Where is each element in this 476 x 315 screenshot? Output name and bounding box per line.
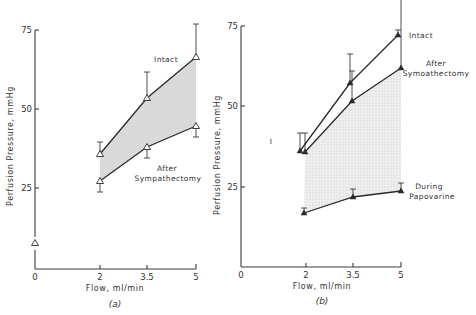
panel-a-shaded-region [100,57,196,181]
panel-a-point-zero-flow [32,240,39,246]
panel-b-stray-mark: I [270,137,273,146]
panel-a-annotation-after: After [157,164,178,173]
panel-a-y-axis [35,30,39,269]
panel-a-x-axis-label: Flow, ml/min [86,284,144,293]
panel-b-xtick-5: 5 [398,270,403,280]
panel-b-annotation-during: During [415,182,443,191]
panel-b-xtick-2: 2 [303,270,308,280]
panel-b-annotation-papaverine: Papovarine [409,192,455,201]
panel-a-ytick-25: 25 [21,183,32,193]
figure: 75 50 25 0 2 3.5 5 Perfusion Pressure, m… [0,0,476,315]
panel-b-annotation-sympathectomy: Symoathectomy [403,69,470,78]
panel-a: 75 50 25 0 2 3.5 5 Perfusion Pressure, m… [6,24,202,309]
panel-b: 75 50 25 0 2 3.5 5 Perfusion Pressure, m… [213,0,469,306]
panel-a-ytick-75: 75 [21,25,32,35]
panel-b-annotation-intact: Intact [409,31,433,40]
panel-b-y-axis-label: Perfusion Pressure, mmHg [213,95,222,215]
panel-b-annotation-after: After [426,59,447,68]
panel-b-ytick-50: 50 [227,101,238,111]
panel-a-y-axis-label: Perfusion Pressure, mmHg [6,86,15,206]
panel-b-x-axis [241,262,401,267]
panel-b-x-axis-label: Flow, ml/min [293,282,351,291]
panel-b-label: (b) [316,296,329,306]
panel-a-x-axis [35,264,196,269]
panel-a-label: (a) [109,299,122,309]
panel-a-annotation-intact: Intact [154,55,178,64]
panel-a-xtick-5: 5 [193,272,198,282]
panel-b-y-axis [241,26,245,267]
panel-b-ytick-25: 25 [227,182,238,192]
panel-b-shaded-region [304,68,401,213]
panel-a-xtick-3-5: 3.5 [140,272,154,282]
panel-b-xtick-3-5: 3.5 [346,270,360,280]
panel-a-annotation-sympathectomy: Sympathectomy [135,174,202,183]
panel-a-ytick-50: 50 [21,104,32,114]
panel-a-xtick-0: 0 [32,272,37,282]
panel-b-xtick-0: 0 [238,270,243,280]
panel-b-ytick-75: 75 [227,21,238,31]
panel-a-xtick-2: 2 [97,272,102,282]
